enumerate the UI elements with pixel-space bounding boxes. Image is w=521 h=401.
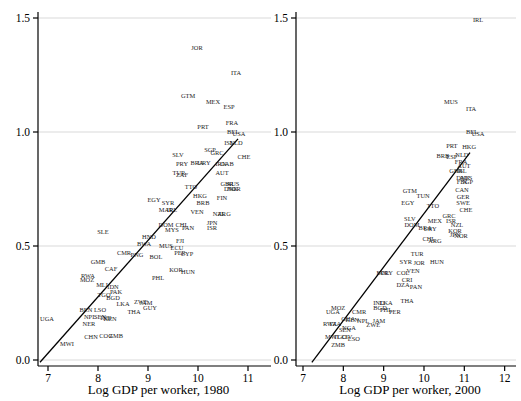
country-label: BRB [197, 200, 210, 206]
country-label: TTO [427, 203, 439, 209]
country-label: ZAF [176, 172, 188, 178]
y-tick-label: 0.0 [274, 354, 288, 366]
country-label: THA [400, 298, 413, 304]
country-label: CHE [238, 154, 251, 160]
country-label: PNG [131, 252, 144, 258]
country-label: JOR [413, 260, 424, 266]
country-label: TUN [417, 193, 430, 199]
country-label: PHL [152, 275, 164, 281]
country-label: KEN [346, 317, 359, 323]
y-tick-label: 0.5 [274, 240, 288, 252]
country-label: UGA [40, 316, 54, 322]
scatter-figure: 0.00.51.01.57891011Log GDP per worker, 1… [0, 0, 521, 401]
y-tick-label: 1.0 [274, 126, 288, 138]
country-label: JOR [191, 45, 202, 51]
country-label: EGY [147, 197, 160, 203]
x-tick-label: 12 [499, 372, 511, 384]
country-label: FIN [217, 195, 227, 201]
country-label: MEX [206, 99, 220, 105]
country-label: MOZ [80, 277, 94, 283]
country-label: USA [472, 131, 485, 137]
country-label: LKA [116, 301, 129, 307]
country-label: IRL [167, 207, 177, 213]
country-label: NOR [454, 233, 468, 239]
country-label: EGY [401, 200, 414, 206]
country-label: BWA [137, 241, 151, 247]
country-label: KEN [103, 316, 116, 322]
country-label: LSO [348, 336, 360, 342]
country-label: HUN [181, 269, 195, 275]
country-label: CMR [117, 250, 131, 256]
country-label: HUN [430, 259, 444, 265]
country-label: PRY [176, 161, 188, 167]
country-label: SLE [97, 229, 108, 235]
country-label: TZA [329, 321, 341, 327]
country-label: MWI [60, 341, 74, 347]
country-label: URY [423, 226, 436, 232]
country-label: DZA [396, 282, 409, 288]
country-label: GTM [181, 93, 195, 99]
country-label: ISR [207, 225, 217, 231]
plot-axes [0, 0, 521, 401]
country-label: ZMB [109, 333, 123, 339]
country-label: TUR [411, 251, 424, 257]
country-label: GRC [210, 150, 223, 156]
country-label: SLV [172, 152, 184, 158]
country-label: TTO [185, 184, 197, 190]
country-label: NER [83, 321, 96, 327]
fit-line [312, 153, 470, 363]
y-tick-label: 0.0 [16, 354, 30, 366]
country-label: VEN [407, 268, 420, 274]
country-label: PRY [381, 270, 393, 276]
y-tick-label: 0.5 [16, 240, 30, 252]
country-label: HKG [462, 144, 476, 150]
y-tick-label: 1.5 [16, 12, 30, 24]
country-label: THA [127, 309, 140, 315]
country-label: FRA [226, 120, 238, 126]
x-tick-label: 11 [242, 372, 253, 384]
country-label: UGA [326, 309, 340, 315]
country-label: ZMB [331, 342, 345, 348]
country-label: MUS [444, 99, 458, 105]
country-label: NOR [227, 186, 241, 192]
y-tick-label: 1.0 [16, 126, 30, 138]
country-label: CHN [84, 334, 98, 340]
country-label: USA [233, 131, 246, 137]
country-label: IRL [473, 17, 483, 23]
country-label: CYP [181, 251, 193, 257]
country-label: ARG [217, 211, 231, 217]
country-label: ITA [466, 106, 476, 112]
country-label: PRT [197, 124, 208, 130]
country-label: PAN [410, 284, 422, 290]
country-label: CAF [105, 266, 117, 272]
country-label: MLI [96, 282, 108, 288]
x-tick-label: 7 [300, 372, 306, 384]
country-label: PRT [446, 143, 457, 149]
country-label: ESP [223, 104, 234, 110]
x-axis-title: Log GDP per worker, 2000 [339, 382, 481, 398]
country-label: PAN [182, 225, 194, 231]
country-label: ARG [428, 238, 442, 244]
country-label: AUT [215, 170, 228, 176]
country-label: URY [197, 160, 210, 166]
country-label: ZWE [366, 322, 380, 328]
country-label: NGA [342, 325, 356, 331]
country-label: VEN [190, 209, 203, 215]
country-label: ITA [231, 70, 241, 76]
country-label: DOM [404, 222, 419, 228]
y-tick-label: 1.5 [274, 12, 288, 24]
country-label: SYR [400, 259, 412, 265]
country-label: PER [389, 309, 401, 315]
x-tick-label: 7 [45, 372, 51, 384]
country-label: GTM [403, 188, 417, 194]
country-label: GUY [143, 305, 157, 311]
country-label: NLD [229, 140, 242, 146]
country-label: BOL [150, 254, 163, 260]
x-axis-title: Log GDP per worker, 1980 [88, 382, 230, 398]
country-label: GMB [91, 259, 106, 265]
country-label: SGP [461, 179, 473, 185]
country-label: CHE [460, 207, 473, 213]
country-label: GAB [220, 161, 234, 167]
country-label: MYS [165, 227, 179, 233]
